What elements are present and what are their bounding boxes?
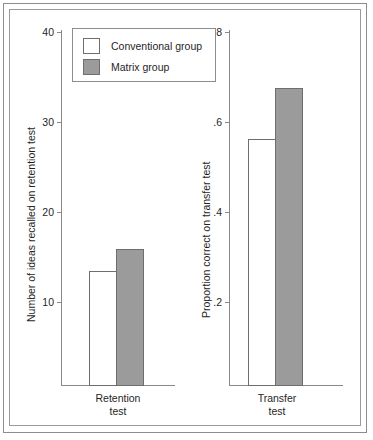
figure-canvas: 40 30 20 10 Number of ideas recalled on … [0,0,373,440]
transfer-bar-conventional [248,139,276,386]
legend-entry-matrix: Matrix group [83,58,169,75]
retention-ytick-mark-30 [57,122,61,123]
transfer-ytick-mark-02 [225,302,229,303]
transfer-y-axis-title: Proportion correct on transfer test [200,162,212,318]
transfer-bar-matrix [275,88,303,386]
retention-category-label-line2: test [66,405,170,418]
retention-ytick-mark-10 [57,302,61,303]
legend-label-conventional: Conventional group [111,40,202,52]
transfer-ytick-label-06: .6 [201,117,222,128]
retention-ytick-mark-20 [57,212,61,213]
transfer-y-axis-line [229,30,230,386]
legend-entry-conventional: Conventional group [83,37,202,54]
legend-label-matrix: Matrix group [111,61,169,73]
transfer-ytick-mark-04 [225,212,229,213]
legend-swatch-matrix-icon [83,59,100,75]
transfer-category-label-line2: test [225,405,329,418]
retention-ytick-label-40: 40 [26,27,54,38]
transfer-category-label-line1: Transfer [225,392,329,405]
chart-legend: Conventional group Matrix group [72,28,216,82]
legend-swatch-conventional-icon [83,38,100,54]
chart-panel-transfer: .8 .6 .4 .2 Proportion correct on transf… [196,0,373,440]
retention-bar-conventional [89,271,117,386]
transfer-ytick-mark-06 [225,122,229,123]
retention-y-axis-line [61,30,62,386]
retention-category-label-line1: Retention [66,392,170,405]
retention-bar-matrix [116,249,144,386]
retention-y-axis-title: Number of ideas recalled on retention te… [25,127,37,322]
retention-ytick-label-30: 30 [26,117,54,128]
transfer-ytick-mark-08 [225,32,229,33]
retention-ytick-mark-40 [57,32,61,33]
